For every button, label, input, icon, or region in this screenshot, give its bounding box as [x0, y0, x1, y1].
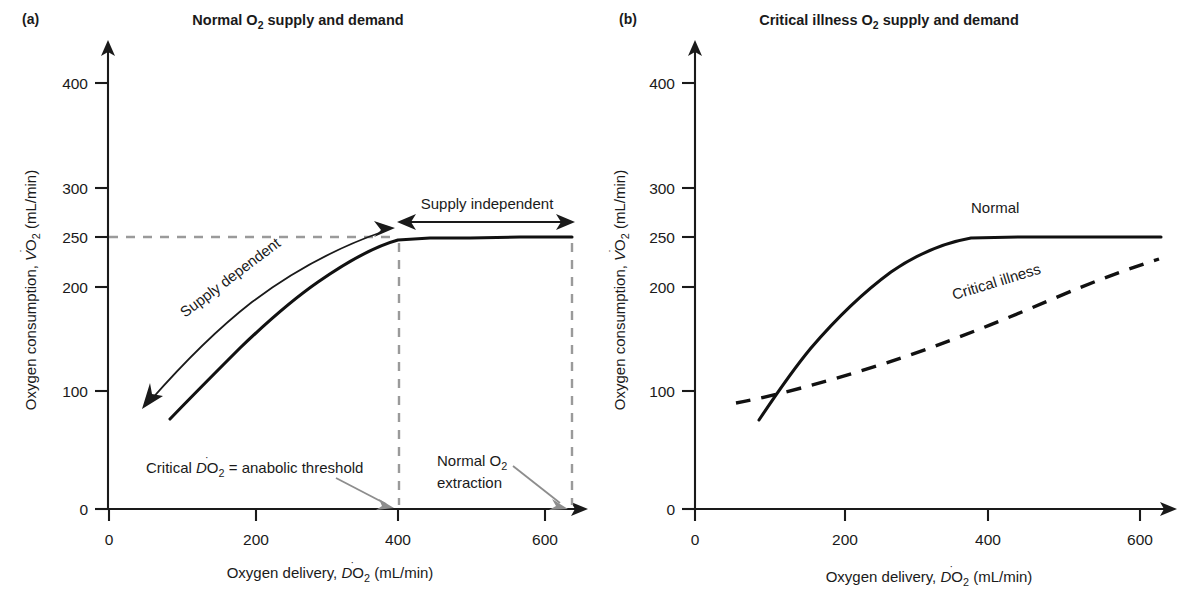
panel-a-title: Normal O2 supply and demand [192, 12, 403, 31]
normal-extraction-callout-arrow [513, 466, 568, 510]
panel-b-title-post: supply and demand [879, 12, 1019, 28]
panel-b-x-axis-title: Oxygen delivery, ḊO2 (mL/min) [826, 566, 1033, 588]
normal-extraction-pre: Normal O [437, 452, 501, 469]
y-title-post: (mL/min) [22, 170, 39, 233]
y-tick-label-400: 400 [649, 75, 675, 92]
normal-extraction-sub: 2 [501, 460, 507, 472]
critical-illness-curve-label: Critical illness [950, 260, 1043, 303]
y-tick-label-400: 400 [62, 75, 88, 92]
y-tick-label-250: 250 [62, 229, 88, 246]
panel-a-x-axis-title: Oxygen delivery, ḊO2 (mL/min) [227, 562, 434, 584]
panel-a-y-axis: 400 300 250 200 100 0 [62, 40, 115, 518]
panel-a-x-axis: 0 200 400 600 [105, 502, 588, 548]
y-tick-label-0: 0 [666, 501, 675, 518]
critical-do2-label: Critical ḊO2 = anabolic threshold [146, 457, 363, 479]
supply-independent-label: Supply independent [421, 195, 554, 212]
y-tick-label-250: 250 [649, 229, 675, 246]
y-title-pre: Oxygen consumption, [22, 261, 39, 410]
x-title-pre: Oxygen delivery, [227, 564, 342, 581]
x-title-italic: D [341, 564, 352, 581]
panel-b-y-axis-title: Oxygen consumption, V̇O2 (mL/min) [609, 170, 631, 410]
x-title-post: (mL/min) [370, 564, 433, 581]
x-tick-label-200: 200 [243, 531, 269, 548]
y-tick-label-200: 200 [62, 279, 88, 296]
y-tick-label-200: 200 [649, 279, 675, 296]
figure-container: (a) Normal O2 supply and demand 400 300 … [0, 0, 1198, 613]
panel-b-critical-illness-curve [736, 259, 1159, 403]
supply-dependent-arrowhead-left [142, 383, 163, 409]
x-tick-label-200: 200 [832, 531, 858, 548]
panel-a-title-post: supply and demand [263, 12, 403, 28]
supply-dependent-label: Supply dependent [177, 234, 284, 321]
panel-b-label: (b) [619, 11, 637, 27]
x-title-italic: D [940, 568, 951, 585]
panel-b-x-axis: 0 200 400 600 [691, 502, 1177, 548]
y-tick-label-300: 300 [649, 180, 675, 197]
critical-do2-italic: D [196, 459, 207, 476]
y-tick-label-300: 300 [62, 180, 88, 197]
x-title-pre: Oxygen delivery, [826, 568, 941, 585]
panel-a-normal-o2-supply-demand: (a) Normal O2 supply and demand 400 300 … [0, 0, 599, 613]
x-tick-label-600: 600 [1127, 531, 1153, 548]
panel-b-normal-curve [759, 237, 1161, 420]
y-tick-label-100: 100 [62, 383, 88, 400]
normal-curve-label: Normal [971, 199, 1019, 216]
x-tick-label-0: 0 [691, 531, 700, 548]
x-title-post: (mL/min) [969, 568, 1032, 585]
panel-a-label: (a) [22, 11, 39, 27]
panel-a-vo2-curve [170, 237, 572, 419]
critical-do2-callout-arrow [336, 478, 394, 510]
x-tick-label-0: 0 [105, 531, 114, 548]
supply-independent-arrow [397, 214, 575, 230]
critical-do2-post: = anabolic threshold [225, 459, 364, 476]
panel-b-title-pre: Critical illness O [759, 12, 873, 28]
normal-extraction-label-line2: extraction [437, 474, 502, 491]
panel-a-y-axis-title: Oxygen consumption, V̇O2 (mL/min) [20, 170, 42, 410]
panel-b-critical-illness-o2-supply-demand: (b) Critical illness O2 supply and deman… [599, 0, 1198, 613]
critical-do2-pre: Critical [146, 459, 196, 476]
x-tick-label-400: 400 [385, 531, 411, 548]
panel-a-title-pre: Normal O [192, 12, 257, 28]
normal-extraction-label-line1: Normal O2 [437, 452, 507, 472]
x-tick-label-600: 600 [532, 531, 558, 548]
panel-b-title: Critical illness O2 supply and demand [759, 12, 1019, 31]
y-tick-label-0: 0 [79, 501, 88, 518]
supply-dependent-arrowhead-right [374, 221, 395, 237]
y-tick-label-100: 100 [649, 383, 675, 400]
panel-b-y-axis: 400 300 250 200 100 0 [649, 40, 702, 518]
y-title-post: (mL/min) [611, 170, 628, 233]
y-title-pre: Oxygen consumption, [611, 261, 628, 410]
x-tick-label-400: 400 [975, 531, 1001, 548]
